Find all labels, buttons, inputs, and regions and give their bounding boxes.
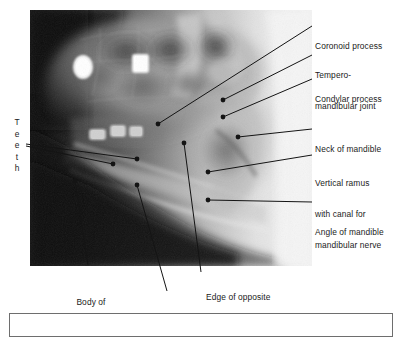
label-angle-of-mandible: Angle of mandible bbox=[315, 207, 384, 258]
label-teeth-letter-0: T bbox=[12, 117, 22, 129]
label-teeth-letter-3: t bbox=[12, 152, 22, 164]
label-edge-of-opposite-side-line-0: Edge of opposite bbox=[206, 292, 270, 302]
label-vertical-ramus-line-0: Vertical ramus bbox=[315, 178, 381, 188]
label-teeth-letter-4: h bbox=[12, 163, 22, 175]
radiograph-graphic bbox=[30, 10, 312, 266]
label-condylar-process-line-0: Condylar process bbox=[315, 94, 382, 104]
label-angle-of-mandible-line-0: Angle of mandible bbox=[315, 227, 384, 237]
label-condylar-process: Condylar process bbox=[315, 74, 382, 125]
label-neck-of-mandible-line-0: Neck of mandible bbox=[315, 144, 381, 154]
mandible-radiograph bbox=[30, 10, 312, 266]
label-body-of-mandible-line-0: Body of bbox=[48, 297, 134, 307]
caption-text bbox=[10, 314, 392, 320]
label-teeth: T e e t h bbox=[12, 117, 22, 175]
label-teeth-letter-2: e bbox=[12, 140, 22, 152]
label-teeth-letter-1: e bbox=[12, 129, 22, 141]
caption-box bbox=[9, 313, 393, 337]
